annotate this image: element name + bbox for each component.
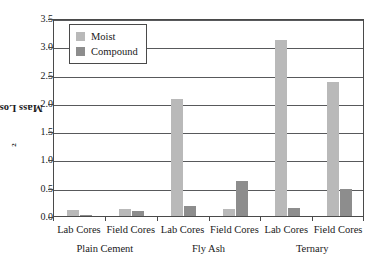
bar-chart: Mass Loss, kg/m2 0.00.51.01.52.02.53.03.…	[0, 0, 375, 277]
y-axis-ticks: 0.00.51.01.52.02.53.03.5	[15, 19, 53, 217]
x-tick-mark	[157, 217, 158, 221]
x-axis-label: Field Cores	[210, 223, 259, 236]
x-axis-group-label: Plain Cement	[76, 242, 133, 255]
x-axis-ticks	[53, 217, 364, 222]
x-axis-label: Lab Cores	[161, 223, 204, 236]
x-axis-group-labels: Plain CementFly AshTernary	[53, 242, 364, 258]
bar-compound-5	[340, 189, 352, 216]
bar-moist-1	[119, 209, 131, 216]
bar-moist-2	[171, 99, 183, 216]
bar-compound-4	[288, 208, 300, 216]
x-axis-label: Lab Cores	[57, 223, 100, 236]
bar-moist-5	[327, 82, 339, 216]
x-axis-label: Lab Cores	[265, 223, 308, 236]
x-axis-group-label: Fly Ash	[192, 242, 225, 255]
x-tick-mark	[363, 217, 364, 221]
x-axis-labels: Lab CoresField CoresLab CoresField Cores…	[53, 223, 364, 239]
legend-swatch-moist-icon	[76, 32, 85, 41]
bar-compound-3	[236, 181, 248, 216]
bar-compound-1	[132, 211, 144, 216]
legend-item: Compound	[76, 44, 138, 59]
legend: Moist Compound	[69, 24, 147, 64]
legend-label-moist: Moist	[91, 31, 116, 43]
x-axis-group-label: Ternary	[296, 242, 329, 255]
x-axis-label: Field Cores	[106, 223, 155, 236]
legend-label-compound: Compound	[91, 46, 138, 58]
bar-moist-0	[67, 210, 79, 216]
x-tick-mark	[105, 217, 106, 221]
bar-compound-2	[184, 206, 196, 216]
x-axis-label: Field Cores	[314, 223, 363, 236]
x-tick-mark	[209, 217, 210, 221]
bar-compound-0	[80, 215, 92, 216]
x-tick-mark	[53, 217, 54, 221]
x-tick-mark	[260, 217, 261, 221]
legend-item: Moist	[76, 29, 138, 44]
legend-swatch-compound-icon	[76, 47, 85, 56]
bar-moist-3	[223, 209, 235, 216]
bar-moist-4	[275, 40, 287, 216]
x-tick-mark	[312, 217, 313, 221]
